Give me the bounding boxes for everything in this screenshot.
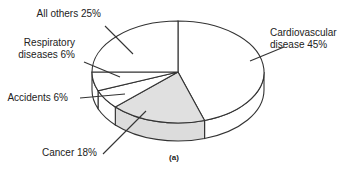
slice-label-line: Respiratory	[24, 37, 75, 48]
pie-chart: Cardiovasculardisease 45%Cancer 18%Accid…	[0, 0, 352, 175]
slice-label: Respiratorydiseases 6%	[18, 37, 75, 60]
slice-label-line: diseases 6%	[18, 49, 75, 60]
slice-label: Cancer 18%	[42, 147, 97, 158]
chart-caption: (a)	[169, 153, 179, 162]
slice-label-line: Cardiovascular	[270, 27, 337, 38]
slice-label: Accidents 6%	[7, 92, 68, 103]
slice-label: All others 25%	[37, 8, 102, 19]
slice-label-line: disease 45%	[270, 39, 327, 50]
slice-label: Cardiovasculardisease 45%	[270, 27, 337, 50]
slice-all-others	[92, 21, 178, 72]
